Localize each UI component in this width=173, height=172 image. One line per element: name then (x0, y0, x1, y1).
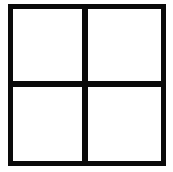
pane-top-left: top-left (13, 9, 82, 81)
pane-top-right: top-right (88, 9, 161, 81)
grid-icon-canvas: top-left top-right bottom-left bottom-ri… (0, 0, 173, 172)
pane-bottom-right: bottom-right (88, 87, 161, 161)
horizontal-divider (8, 81, 166, 87)
pane-bottom-left: bottom-left (13, 87, 82, 161)
